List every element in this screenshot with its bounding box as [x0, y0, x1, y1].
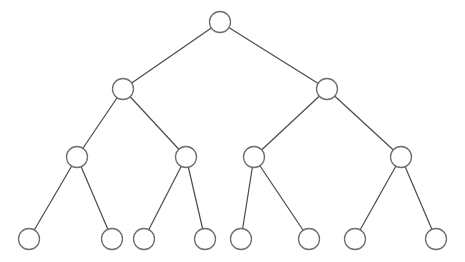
node-layer [19, 12, 447, 250]
tree-edge [355, 157, 401, 239]
tree-node [317, 79, 338, 100]
leaf-node [19, 229, 40, 250]
tree-edge [123, 22, 220, 89]
tree-node [176, 147, 197, 168]
tree-edge [254, 89, 327, 157]
tree-edge [327, 89, 401, 157]
tree-diagram [0, 0, 465, 262]
root-node [210, 12, 231, 33]
tree-edge [29, 157, 77, 239]
leaf-node [345, 229, 366, 250]
tree-edge [186, 157, 205, 239]
leaf-node [134, 229, 155, 250]
tree-canvas [0, 0, 465, 262]
tree-node [391, 147, 412, 168]
tree-node [244, 147, 265, 168]
leaf-node [299, 229, 320, 250]
tree-edge [144, 157, 186, 239]
tree-edge [77, 89, 123, 157]
tree-node [67, 147, 88, 168]
tree-edge [254, 157, 309, 239]
leaf-node [102, 229, 123, 250]
tree-node [113, 79, 134, 100]
tree-edge [241, 157, 254, 239]
tree-edge [401, 157, 436, 239]
tree-edge [77, 157, 112, 239]
leaf-node [426, 229, 447, 250]
tree-edge [220, 22, 327, 89]
leaf-node [195, 229, 216, 250]
leaf-node [231, 229, 252, 250]
tree-edge [123, 89, 186, 157]
edge-layer [29, 22, 436, 239]
